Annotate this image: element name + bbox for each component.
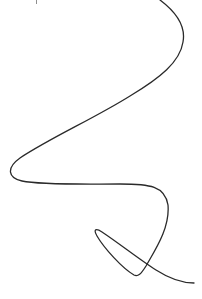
drawing-canvas xyxy=(0,0,202,299)
edge-mark xyxy=(36,0,37,4)
freehand-curve xyxy=(10,0,194,283)
curve-svg xyxy=(0,0,202,299)
